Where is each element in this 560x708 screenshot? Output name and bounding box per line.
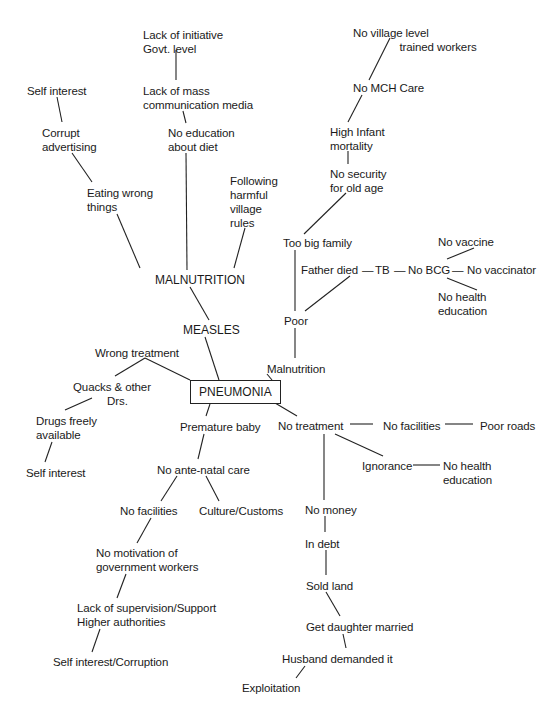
node-get-daughter: Get daughter married	[306, 620, 413, 634]
connector-line	[335, 434, 383, 456]
connector-line	[206, 404, 210, 416]
node-father-died: Father died	[301, 263, 358, 277]
node-poor-roads: Poor roads	[480, 419, 535, 433]
connector-line	[186, 153, 187, 270]
node-lack-initiative: Lack of initiative Govt. level	[143, 28, 223, 56]
node-no-facilities-left: No facilities	[120, 504, 178, 518]
node-no-vaccine: No vaccine	[438, 235, 494, 249]
node-poor: Poor	[284, 314, 308, 328]
connector-line	[326, 592, 340, 616]
node-in-debt: In debt	[305, 537, 339, 551]
dash-connector: —	[394, 263, 405, 277]
connector-line	[161, 476, 177, 501]
node-no-health-edu-top: No health education	[438, 290, 487, 318]
connector-line	[117, 214, 140, 268]
node-no-village-workers: No village level trained workers	[353, 26, 477, 54]
node-no-money: No money	[305, 503, 357, 517]
connector-line	[343, 634, 346, 648]
node-husband-demanded: Husband demanded it	[282, 652, 393, 666]
node-following-rules: Following harmful village rules	[230, 174, 278, 230]
node-exploitation: Exploitation	[242, 681, 300, 695]
node-no-mch: No MCH Care	[353, 81, 424, 95]
node-ignorance: Ignorance	[362, 459, 412, 473]
root-node-pneumonia: PNEUMONIA	[190, 380, 281, 404]
node-lack-supervision: Lack of supervision/Support Higher autho…	[77, 601, 216, 629]
node-quacks: Quacks & other Drs.	[73, 380, 151, 408]
node-sold-land: Sold land	[306, 579, 353, 593]
connector-line	[447, 248, 474, 259]
connector-line	[57, 97, 62, 122]
connector-line	[92, 629, 100, 652]
connector-line	[296, 666, 305, 678]
connector-line	[205, 337, 219, 380]
connector-line	[305, 276, 350, 311]
node-no-bcg: No BCG	[408, 263, 450, 277]
connector-line	[115, 358, 145, 376]
node-too-big-family: Too big family	[283, 236, 352, 250]
node-no-antenatal: No ante-natal care	[157, 463, 250, 477]
connector-line	[117, 574, 126, 598]
node-no-treatment: No treatment	[278, 419, 343, 433]
node-no-security: No security for old age	[330, 167, 386, 195]
connector-line	[304, 193, 346, 234]
dash-connector: —	[362, 263, 373, 277]
connector-line	[137, 518, 151, 543]
node-high-infant: High Infant mortality	[330, 125, 385, 153]
node-culture-customs: Culture/Customs	[199, 504, 283, 518]
node-premature-baby: Premature baby	[180, 420, 260, 434]
node-tb: TB	[375, 263, 390, 277]
connector-line	[206, 476, 219, 501]
node-malnutrition-main: MALNUTRITION	[155, 273, 245, 287]
node-measles: MEASLES	[183, 323, 240, 337]
connector-line	[447, 278, 477, 290]
connector-line	[183, 111, 186, 123]
node-eating-wrong: Eating wrong things	[87, 186, 153, 214]
connector-line	[45, 442, 52, 462]
node-no-vaccinator: No vaccinator	[467, 263, 536, 277]
node-no-health-edu-bottom: No health education	[443, 459, 492, 487]
node-self-interest-corruption: Self interest/Corruption	[53, 655, 168, 669]
connector-line	[234, 228, 245, 268]
node-corrupt-advertising: Corrupt advertising	[42, 126, 97, 154]
node-wrong-treatment: Wrong treatment	[95, 346, 179, 360]
node-drugs-freely: Drugs freely available	[36, 414, 97, 442]
node-self-interest-top: Self interest	[27, 84, 86, 98]
connector-line	[198, 434, 204, 459]
dash-connector: —	[452, 263, 463, 277]
node-no-motivation: No motivation of government workers	[96, 546, 198, 574]
node-no-facilities-right: No facilities	[383, 419, 441, 433]
node-no-education-diet: No education about diet	[168, 126, 235, 154]
connector-line	[348, 95, 362, 122]
node-malnutrition-right: Malnutrition	[267, 362, 325, 376]
connector-line	[72, 153, 92, 182]
connector-line	[145, 358, 190, 380]
pneumonia-cause-diagram: Lack of initiative Govt. levelLack of ma…	[0, 0, 560, 708]
node-self-interest-left: Self interest	[26, 466, 85, 480]
node-lack-mass-media: Lack of mass communication media	[143, 84, 253, 112]
connector-line	[190, 287, 209, 320]
